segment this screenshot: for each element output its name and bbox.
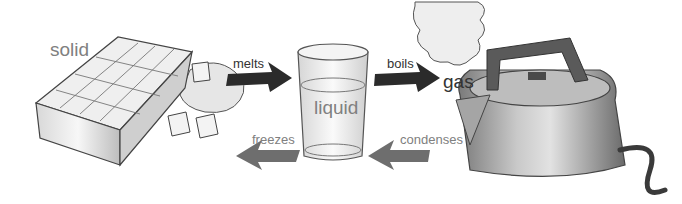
gas-label: gas [443, 72, 474, 91]
melts-label: melts [233, 57, 264, 70]
liquid-label: liquid [314, 98, 358, 117]
steam-cloud [413, 2, 484, 65]
states-of-matter-diagram: solid liquid gas melts boils condenses f… [0, 0, 682, 204]
solid-label: solid [50, 40, 89, 59]
freezes-label: freezes [252, 133, 295, 146]
kettle [456, 38, 665, 193]
boils-label: boils [387, 57, 414, 70]
condenses-label: condenses [400, 133, 463, 146]
